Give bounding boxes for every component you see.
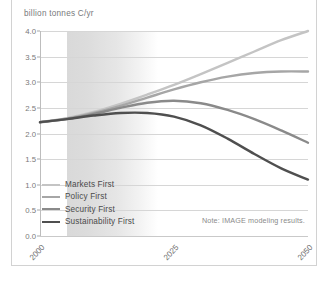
legend-label: Policy First xyxy=(65,192,107,201)
y-tick-label: 3.0 xyxy=(25,78,36,87)
y-tick-label: 4.0 xyxy=(25,27,36,36)
legend-swatch xyxy=(42,196,60,198)
y-tick-label: 1.5 xyxy=(25,155,36,164)
x-tick-label: 2050 xyxy=(296,243,315,262)
gridline xyxy=(40,236,308,237)
chart-figure: billion tonnes C/yr 0.00.51.01.52.02.53.… xyxy=(0,0,321,285)
legend-swatch xyxy=(42,208,60,210)
series-line xyxy=(40,113,308,180)
legend-label: Security First xyxy=(65,205,115,214)
source-note: Note: IMAGE modeling results. xyxy=(202,216,305,225)
legend-item[interactable]: Markets First xyxy=(42,180,134,189)
y-tick-label: 2.5 xyxy=(25,103,36,112)
legend-swatch xyxy=(42,184,60,186)
figure-title-cropped xyxy=(24,0,224,2)
legend-label: Markets First xyxy=(65,180,114,189)
legend-swatch xyxy=(42,221,60,223)
chart-legend: Markets FirstPolicy FirstSecurity FirstS… xyxy=(42,180,134,226)
y-tick-label: 3.5 xyxy=(25,52,36,61)
y-tick-label: 2.0 xyxy=(25,129,36,138)
y-axis-unit-label: billion tonnes C/yr xyxy=(24,9,94,18)
series-line xyxy=(40,101,308,143)
legend-label: Sustainability First xyxy=(65,217,134,226)
y-tick-label: 0.0 xyxy=(25,232,36,241)
x-tick-label: 2025 xyxy=(162,243,181,262)
legend-item[interactable]: Policy First xyxy=(42,192,134,201)
legend-item[interactable]: Security First xyxy=(42,205,134,214)
legend-item[interactable]: Sustainability First xyxy=(42,217,134,226)
series-line xyxy=(40,31,308,122)
y-tick-label: 0.5 xyxy=(25,206,36,215)
x-tick-label: 2000 xyxy=(28,243,47,262)
y-tick-label: 1.0 xyxy=(25,180,36,189)
